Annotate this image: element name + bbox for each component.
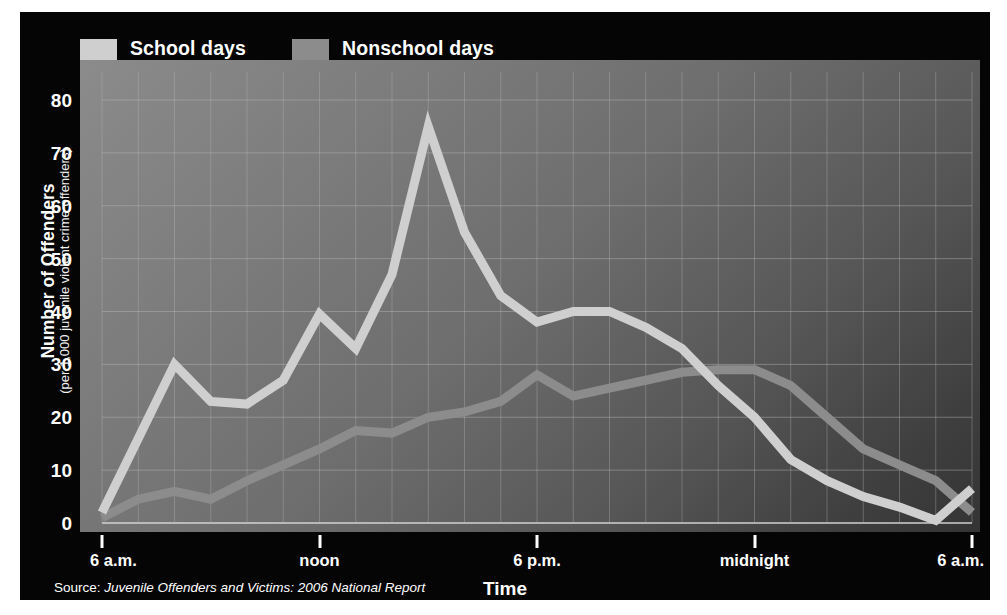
x-tick-mark	[753, 535, 756, 548]
legend-swatch-school-days	[80, 39, 117, 60]
chart-page: School days Nonschool days Number of Off…	[0, 0, 1007, 615]
x-tick-label: noon	[299, 551, 339, 570]
legend-item-school-days: School days	[80, 39, 246, 60]
x-tick-label: 6 p.m.	[513, 551, 561, 570]
y-tick-label: 80	[51, 91, 72, 110]
chart-card: School days Nonschool days Number of Off…	[20, 12, 990, 600]
source-note: Source: Juvenile Offenders and Victims: …	[54, 580, 425, 595]
y-tick-label: 40	[51, 302, 72, 321]
chart-svg	[80, 60, 980, 532]
legend-label-school-days: School days	[130, 39, 246, 59]
plot-background	[80, 60, 980, 532]
legend-swatch-nonschool-days	[292, 39, 329, 60]
y-tick-label: 70	[51, 143, 72, 162]
y-tick-label: 10	[51, 461, 72, 480]
source-label: Source:	[54, 580, 101, 595]
source-title: Juvenile Offenders and Victims: 2006 Nat…	[104, 580, 425, 595]
x-tick-mark	[318, 535, 321, 548]
legend-item-nonschool-days: Nonschool days	[292, 39, 494, 60]
x-tick-label: midnight	[720, 551, 790, 570]
x-tick-label: 6 a.m.	[90, 551, 137, 570]
y-tick-label: 30	[51, 355, 72, 374]
x-axis-tick-labels: 6 a.m.noon6 p.m.midnight6 a.m.	[80, 535, 980, 575]
x-tick-mark	[971, 535, 974, 548]
legend-label-nonschool-days: Nonschool days	[342, 39, 494, 59]
plot-area	[80, 60, 980, 532]
y-tick-label: 50	[51, 249, 72, 268]
x-tick-mark	[101, 535, 104, 548]
y-axis-tick-labels: 01020304050607080	[20, 60, 78, 532]
x-tick-label: 6 a.m.	[937, 551, 984, 570]
y-tick-label: 20	[51, 408, 72, 427]
y-tick-label: 60	[51, 196, 72, 215]
y-tick-label: 0	[61, 514, 72, 533]
x-tick-mark	[536, 535, 539, 548]
